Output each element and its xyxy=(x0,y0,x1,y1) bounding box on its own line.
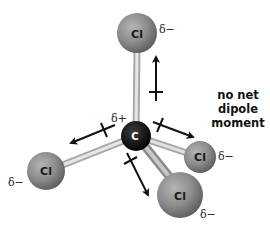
dipole-arrow-right-icon xyxy=(153,118,193,137)
atom-cl-right: Cl δ− xyxy=(184,141,234,173)
dipole-arrow-left-icon xyxy=(71,123,115,143)
note-line-1: no net xyxy=(206,88,270,102)
dipole-arrow-down-icon xyxy=(124,153,148,195)
atom-label-cl-right: Cl xyxy=(194,151,206,164)
atom-cl-left: Cl δ− xyxy=(8,152,65,190)
charge-label-carbon: δ+ xyxy=(111,112,127,125)
atom-label-cl-left: Cl xyxy=(40,165,52,178)
charge-label-left: δ− xyxy=(8,176,24,189)
atom-label-c: C xyxy=(131,131,138,142)
note-line-3: moment xyxy=(206,116,270,130)
no-net-dipole-note: no net dipole moment xyxy=(206,88,270,130)
dipole-arrow-up-icon xyxy=(149,57,163,101)
note-line-2: dipole xyxy=(206,102,270,116)
atom-label-cl-top: Cl xyxy=(131,28,143,41)
atom-label-cl-bottom: Cl xyxy=(174,190,186,203)
atom-cl-top: Cl δ− xyxy=(117,13,175,53)
charge-label-bottom: δ− xyxy=(200,208,216,221)
atom-cl-bottom: Cl δ− xyxy=(157,172,216,221)
charge-label-top: δ− xyxy=(159,23,175,36)
charge-label-right: δ− xyxy=(218,150,234,163)
